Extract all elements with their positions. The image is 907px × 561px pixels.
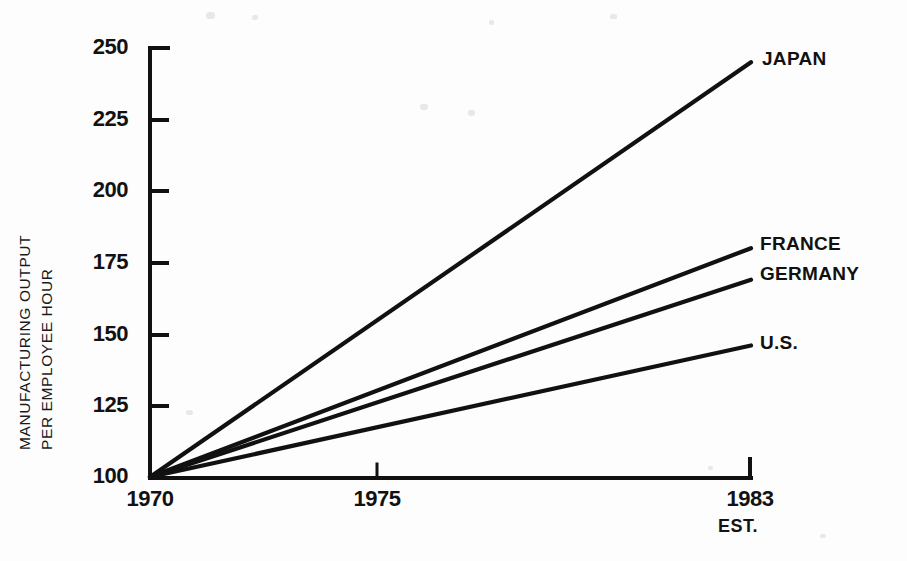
y-axis-title-line-1: MANUFACTURING OUTPUT xyxy=(16,235,34,450)
series-line-france xyxy=(150,248,751,477)
series-label-germany: GERMANY xyxy=(760,263,859,285)
y-axis xyxy=(150,48,168,478)
x-tick-label-1983: 1983 xyxy=(704,486,796,512)
series-lines xyxy=(150,62,751,477)
x-axis-note-est: EST. xyxy=(718,516,758,537)
y-tick-label-250: 250 xyxy=(44,34,128,60)
series-label-us: U.S. xyxy=(760,332,798,354)
chart-figure: 250 225 200 175 150 125 100 1970 1975 19… xyxy=(0,0,907,561)
series-label-france: FRANCE xyxy=(760,233,841,255)
series-line-germany xyxy=(150,280,751,477)
x-axis xyxy=(150,459,751,478)
series-line-us xyxy=(150,345,751,477)
y-axis-title: MANUFACTURING OUTPUT PER EMPLOYEE HOUR xyxy=(12,110,72,450)
x-tick-label-1970: 1970 xyxy=(104,486,196,512)
series-label-japan: JAPAN xyxy=(762,48,827,70)
series-line-japan xyxy=(150,62,751,477)
y-axis-title-line-2: PER EMPLOYEE HOUR xyxy=(38,268,56,450)
x-tick-label-1975: 1975 xyxy=(331,486,423,512)
